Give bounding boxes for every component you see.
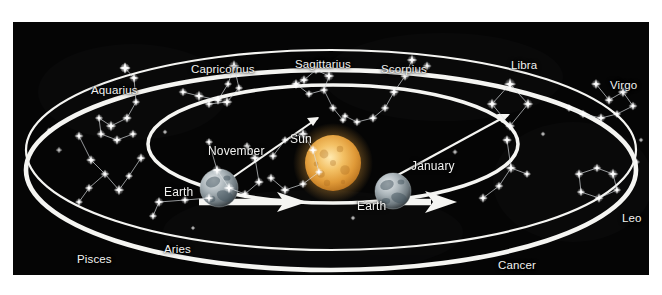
earth-january xyxy=(375,173,411,209)
diagram-panel: Aquarius Capricornus Sagittarius Scorpiu… xyxy=(13,22,649,275)
figure-canvas: Aquarius Capricornus Sagittarius Scorpiu… xyxy=(0,0,662,295)
diagram-graphics xyxy=(13,22,649,275)
